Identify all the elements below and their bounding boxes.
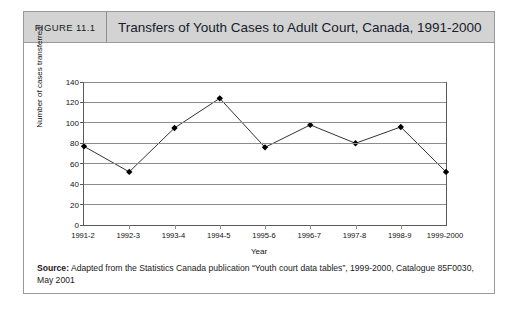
y-tick-label: 20	[70, 200, 79, 209]
x-tick-mark	[310, 225, 311, 229]
gridline	[84, 82, 446, 83]
x-tick-mark	[401, 225, 402, 229]
gridline	[84, 163, 446, 164]
y-tick-label: 80	[70, 139, 79, 148]
y-tick-label: 60	[70, 159, 79, 168]
y-tick-mark	[80, 163, 84, 164]
x-tick-label: 1998-9	[388, 231, 412, 240]
y-tick-mark	[80, 225, 84, 226]
y-tick-mark	[80, 82, 84, 83]
source-text: Adapted from the Statistics Canada publi…	[37, 263, 474, 285]
source-label: Source:	[37, 263, 69, 273]
x-tick-label: 1995-6	[252, 231, 276, 240]
gridline	[84, 143, 446, 144]
gridline	[84, 204, 446, 205]
x-tick-label: 1996-7	[297, 231, 321, 240]
chart-body: Number of cases transferred 020406080100…	[24, 43, 494, 249]
x-tick-mark	[356, 225, 357, 229]
gridline	[84, 122, 446, 123]
x-axis-tick-labels: 1991-21992-31993-41994-51995-61996-71997…	[83, 231, 445, 245]
series-line	[84, 98, 446, 172]
x-tick-mark	[265, 225, 266, 229]
x-tick-mark	[129, 225, 130, 229]
source-note: Source: Adapted from the Statistics Cana…	[37, 262, 481, 287]
y-tick-label: 0	[75, 221, 79, 230]
y-tick-label: 120	[66, 98, 79, 107]
x-tick-label: 1999-2000	[427, 231, 463, 240]
y-tick-label: 40	[70, 180, 79, 189]
y-tick-label: 140	[66, 78, 79, 87]
y-axis-title: Number of cases transferred	[35, 17, 44, 137]
x-tick-mark	[175, 225, 176, 229]
data-point-marker	[81, 143, 87, 149]
x-tick-label: 1994-5	[207, 231, 231, 240]
x-tick-label: 1997-8	[343, 231, 367, 240]
x-tick-label: 1991-2	[71, 231, 95, 240]
gridline	[84, 102, 446, 103]
y-tick-mark	[80, 122, 84, 123]
figure-container: FIGURE 11.1 Transfers of Youth Cases to …	[23, 11, 495, 294]
plot-area	[83, 82, 447, 226]
y-tick-mark	[80, 204, 84, 205]
y-tick-mark	[80, 143, 84, 144]
figure-header: FIGURE 11.1 Transfers of Youth Cases to …	[24, 12, 494, 43]
y-tick-mark	[80, 184, 84, 185]
figure-title: Transfers of Youth Cases to Adult Court,…	[107, 12, 494, 42]
y-tick-label: 100	[66, 118, 79, 127]
y-axis-tick-labels: 020406080100120140	[53, 82, 79, 225]
x-tick-label: 1993-4	[162, 231, 186, 240]
gridline	[84, 184, 446, 185]
y-tick-mark	[80, 102, 84, 103]
x-axis-title: Year	[24, 247, 494, 256]
x-tick-mark	[220, 225, 221, 229]
x-tick-label: 1992-3	[116, 231, 140, 240]
